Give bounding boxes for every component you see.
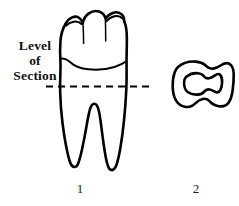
cross-section-pulp-canal-path (184, 73, 222, 95)
occlusal-groove-left-path (83, 24, 84, 44)
crown-cusp-left-ridge-path (66, 22, 82, 26)
figure-number-2: 2 (186, 181, 206, 197)
cervical-line-path (60, 58, 126, 69)
figure-container: Level of Section (0, 0, 239, 206)
root-cross-section-group (173, 62, 234, 107)
crown-cusp-right-ridge-path (106, 16, 122, 21)
tooth-outline-path (60, 22, 127, 171)
figure-number-1: 1 (70, 181, 90, 197)
crown-cusp-center-path (83, 11, 106, 23)
cross-section-outer-outline-path (173, 62, 234, 107)
tooth-longitudinal-group (60, 11, 127, 170)
tooth-diagram-artwork (0, 0, 239, 206)
